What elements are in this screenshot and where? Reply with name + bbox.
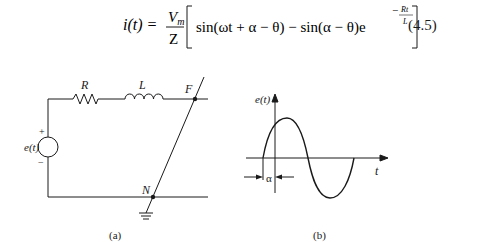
source-plus-sign: + xyxy=(39,126,45,137)
fault-node-dot xyxy=(193,97,197,101)
alpha-arrow-right-icon xyxy=(256,175,263,180)
e-axis-arrow-icon xyxy=(272,94,278,102)
voltage-source-icon xyxy=(38,137,58,157)
caption-b: (b) xyxy=(313,229,326,242)
alpha-arrow-left-icon xyxy=(275,175,282,180)
t-axis-arrow-icon xyxy=(380,155,388,161)
inductor-icon xyxy=(125,94,163,99)
alpha-label: α xyxy=(266,172,272,184)
fault-node-label: F xyxy=(184,82,193,96)
source-minus-sign: − xyxy=(38,157,44,168)
resistor-icon xyxy=(73,94,98,104)
circuit-diagram xyxy=(38,77,208,219)
neutral-node-dot xyxy=(151,195,155,199)
caption-a: (a) xyxy=(109,229,122,242)
resistor-label: R xyxy=(80,78,89,92)
y-axis-label: e(t) xyxy=(255,93,271,106)
x-axis-label: t xyxy=(375,164,379,178)
neutral-node-label: N xyxy=(141,183,151,197)
inductor-label: L xyxy=(138,78,146,92)
source-label: e(t) xyxy=(24,141,40,154)
figure-4-5: R L F N e(t) + − (a) e(t) t α (b) xyxy=(0,0,482,242)
